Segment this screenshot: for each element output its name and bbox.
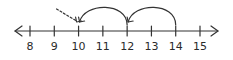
tick-label: 10 [72, 40, 86, 53]
tick-label: 8 [27, 40, 34, 53]
dashed-hop-arrow [57, 9, 77, 21]
tick-label: 15 [193, 40, 207, 53]
hop-arrow [80, 7, 128, 25]
tick-label: 14 [169, 40, 183, 53]
tick-label: 12 [120, 40, 134, 53]
tick-label: 11 [96, 40, 110, 53]
tick-label: 13 [144, 40, 158, 53]
hop-arrow [128, 7, 176, 25]
number-line-diagram: 89101112131415 [0, 0, 233, 60]
number-line-svg: 89101112131415 [0, 0, 233, 60]
tick-label: 9 [51, 40, 58, 53]
